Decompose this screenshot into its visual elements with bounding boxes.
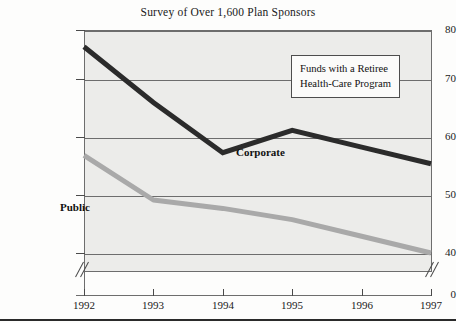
series-line-public <box>84 155 431 253</box>
series-label-public: Public <box>60 201 90 213</box>
legend-line-1: Funds with a Retiree <box>300 61 391 76</box>
series-label-corporate: Corporate <box>236 146 285 158</box>
legend-line-2: Health-Care Program <box>300 76 391 91</box>
bottom-rule <box>0 319 456 321</box>
legend-box: Funds with a Retiree Health-Care Program <box>291 55 400 98</box>
